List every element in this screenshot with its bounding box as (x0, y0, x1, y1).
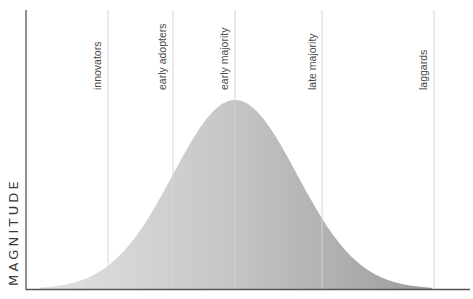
label-innovators: innovators (91, 42, 103, 90)
label-early-majority: early majority (218, 27, 230, 90)
label-late-majority: late majority (306, 33, 318, 90)
y-axis-label: MAGNITUDE (6, 178, 21, 286)
bell-curve-area (40, 100, 432, 289)
segment-labels: innovators early adopters early majority… (91, 23, 429, 90)
label-early-adopters: early adopters (156, 23, 168, 90)
label-laggards: laggards (417, 50, 429, 90)
adoption-curve-chart: innovators early adopters early majority… (0, 0, 473, 299)
